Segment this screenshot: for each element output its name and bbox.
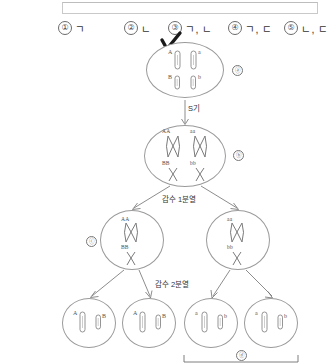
choice-option-5[interactable]: ⑤ ㄴ, ㄷ <box>284 18 329 38</box>
choice-label-3: ㄱ, ㄴ <box>185 21 213 36</box>
chromosome-label-aa: aa <box>190 128 195 134</box>
chromosome-label-AA: AA <box>162 128 170 134</box>
choice-option-4[interactable]: ④ ㄱ, ㄷ <box>228 18 273 38</box>
chromosome-pair-bb-right <box>233 252 241 265</box>
choice-number-5: ⑤ <box>284 21 298 35</box>
chromosome-group-gamete-3 <box>185 299 239 349</box>
chromosome-label-gamete-4-a: a <box>255 310 258 316</box>
step-label-s-phase: S기 <box>188 102 200 113</box>
chromosome-label-b: b <box>198 74 201 80</box>
choice-option-2[interactable]: ② ㄴ <box>124 18 152 38</box>
choice-option-3[interactable]: ③ ㄱ, ㄴ <box>168 18 213 38</box>
question-box-border <box>62 2 318 14</box>
cell-gamete-3: a b <box>184 298 238 348</box>
chromosome-A <box>175 51 180 69</box>
chromosome-pair-AA-left <box>125 223 138 242</box>
chromosome-pair-BB-left <box>127 252 135 265</box>
chromosome-a <box>191 51 196 69</box>
chromosome-label-bb-right: bb <box>227 244 233 250</box>
chromosome-label-bb: bb <box>190 160 196 166</box>
chromosome-label-B: B <box>168 74 172 80</box>
chromosome-pair-BB <box>169 168 177 181</box>
chromosome-label-gamete-4-b: b <box>284 313 287 319</box>
worksheet-page: ① ㄱ ② ㄴ ③ ㄱ, ㄴ ④ ㄱ, ㄷ ⑤ ㄴ, ㄷ <box>0 0 329 363</box>
chromosome-label-BB-left: BB <box>121 244 129 250</box>
choice-option-1[interactable]: ① ㄱ <box>58 18 86 38</box>
cell-parent: A a B b <box>146 42 224 98</box>
chromosome-pair-AA <box>167 136 180 157</box>
chromosome-group-replicated <box>145 126 227 188</box>
chromosome-b <box>191 76 196 89</box>
chromosome-pair-aa <box>194 136 207 157</box>
chromosome-B <box>175 76 180 89</box>
marker-d-gamete-bracket: ⓓ <box>236 350 247 361</box>
marker-a-parent-cell: ⓐ <box>232 65 243 76</box>
chromosome-group-daughter-right <box>207 211 271 271</box>
chromosome-label-gamete-1-B: B <box>102 313 106 319</box>
choice-label-5: ㄴ, ㄷ <box>301 21 329 36</box>
chromosome-label-gamete-2-A: A <box>133 310 137 316</box>
chromosome-group-gamete-4 <box>245 299 299 349</box>
chromosome-group-daughter-left <box>101 211 165 271</box>
answer-choices: ① ㄱ ② ㄴ ③ ㄱ, ㄴ ④ ㄱ, ㄷ ⑤ ㄴ, ㄷ <box>0 18 329 40</box>
chromosome-label-a: a <box>198 49 201 55</box>
chromosome-label-gamete-1-A: A <box>73 310 77 316</box>
cell-gamete-4: a b <box>244 298 298 348</box>
choice-label-4: ㄱ, ㄷ <box>245 21 273 36</box>
chromosome-label-gamete-2-B: B <box>162 313 166 319</box>
chromosome-group-gamete-2 <box>123 299 177 349</box>
cell-replicated: AA aa BB bb <box>144 125 226 187</box>
cell-gamete-1: A B <box>62 298 116 348</box>
choice-number-1: ① <box>58 21 72 35</box>
choice-label-2: ㄴ <box>141 21 152 36</box>
choice-number-2: ② <box>124 21 138 35</box>
choice-number-3: ③ <box>168 21 182 35</box>
cell-gamete-2: A B <box>122 298 176 348</box>
chromosome-label-A: A <box>168 49 172 55</box>
cell-daughter-left: AA BB <box>100 210 164 270</box>
meiosis-diagram: A a B b ⓐ S기 <box>0 40 329 363</box>
step-label-meiosis-2: 감수 2분열 <box>155 278 189 289</box>
chromosome-label-AA-left: AA <box>121 216 129 222</box>
choice-label-1: ㄱ <box>75 21 86 36</box>
chromosome-pair-aa-right <box>231 223 244 242</box>
chromosome-pair-bb <box>196 168 204 181</box>
choice-number-4: ④ <box>228 21 242 35</box>
chromosome-label-BB: BB <box>162 160 170 166</box>
cell-daughter-right: aa bb <box>206 210 270 270</box>
chromosome-label-gamete-3-a: a <box>195 310 198 316</box>
marker-b-replicated-cell: ⓑ <box>233 150 244 161</box>
chromosome-group-gamete-1 <box>63 299 117 349</box>
chromosome-group-parent <box>147 43 225 99</box>
chromosome-label-gamete-3-b: b <box>224 313 227 319</box>
chromosome-label-aa-right: aa <box>227 216 232 222</box>
marker-c-daughter-left: ⓒ <box>86 236 97 247</box>
step-label-meiosis-1: 감수 1분열 <box>162 193 196 204</box>
